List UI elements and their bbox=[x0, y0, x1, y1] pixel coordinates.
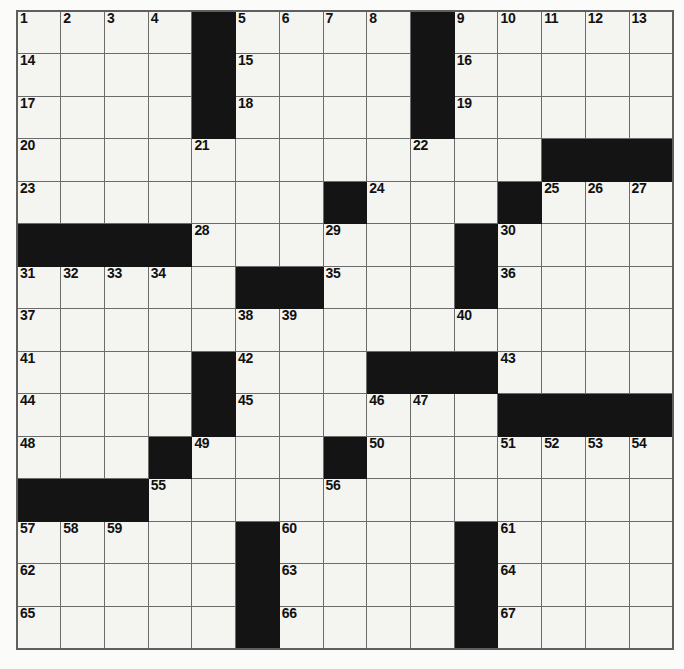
empty-cell[interactable] bbox=[585, 564, 629, 607]
empty-cell[interactable] bbox=[61, 351, 105, 394]
empty-cell[interactable] bbox=[542, 564, 586, 607]
numbered-cell[interactable]: 20 bbox=[17, 139, 61, 182]
numbered-cell[interactable]: 48 bbox=[17, 436, 61, 479]
numbered-cell[interactable]: 33 bbox=[104, 266, 148, 309]
numbered-cell[interactable]: 63 bbox=[279, 564, 323, 607]
empty-cell[interactable] bbox=[585, 224, 629, 267]
numbered-cell[interactable]: 61 bbox=[498, 521, 542, 564]
numbered-cell[interactable]: 30 bbox=[498, 224, 542, 267]
numbered-cell[interactable]: 50 bbox=[367, 436, 411, 479]
numbered-cell[interactable]: 19 bbox=[454, 96, 498, 139]
empty-cell[interactable] bbox=[367, 224, 411, 267]
empty-cell[interactable] bbox=[148, 181, 192, 224]
empty-cell[interactable] bbox=[236, 139, 280, 182]
numbered-cell[interactable]: 36 bbox=[498, 266, 542, 309]
empty-cell[interactable] bbox=[323, 309, 367, 352]
empty-cell[interactable] bbox=[542, 266, 586, 309]
numbered-cell[interactable]: 44 bbox=[17, 394, 61, 437]
empty-cell[interactable] bbox=[104, 309, 148, 352]
empty-cell[interactable] bbox=[629, 564, 673, 607]
numbered-cell[interactable]: 40 bbox=[454, 309, 498, 352]
empty-cell[interactable] bbox=[192, 266, 236, 309]
empty-cell[interactable] bbox=[454, 139, 498, 182]
empty-cell[interactable] bbox=[410, 181, 454, 224]
numbered-cell[interactable]: 4 bbox=[148, 11, 192, 54]
empty-cell[interactable] bbox=[498, 139, 542, 182]
empty-cell[interactable] bbox=[410, 564, 454, 607]
empty-cell[interactable] bbox=[542, 351, 586, 394]
empty-cell[interactable] bbox=[629, 606, 673, 649]
numbered-cell[interactable]: 18 bbox=[236, 96, 280, 139]
empty-cell[interactable] bbox=[585, 521, 629, 564]
empty-cell[interactable] bbox=[148, 521, 192, 564]
empty-cell[interactable] bbox=[192, 606, 236, 649]
empty-cell[interactable] bbox=[148, 309, 192, 352]
empty-cell[interactable] bbox=[454, 394, 498, 437]
empty-cell[interactable] bbox=[367, 309, 411, 352]
numbered-cell[interactable]: 52 bbox=[542, 436, 586, 479]
empty-cell[interactable] bbox=[542, 521, 586, 564]
numbered-cell[interactable]: 24 bbox=[367, 181, 411, 224]
numbered-cell[interactable]: 38 bbox=[236, 309, 280, 352]
numbered-cell[interactable]: 65 bbox=[17, 606, 61, 649]
numbered-cell[interactable]: 42 bbox=[236, 351, 280, 394]
empty-cell[interactable] bbox=[279, 181, 323, 224]
empty-cell[interactable] bbox=[279, 224, 323, 267]
empty-cell[interactable] bbox=[367, 54, 411, 97]
numbered-cell[interactable]: 57 bbox=[17, 521, 61, 564]
numbered-cell[interactable]: 7 bbox=[323, 11, 367, 54]
empty-cell[interactable] bbox=[542, 606, 586, 649]
empty-cell[interactable] bbox=[585, 606, 629, 649]
numbered-cell[interactable]: 5 bbox=[236, 11, 280, 54]
numbered-cell[interactable]: 16 bbox=[454, 54, 498, 97]
empty-cell[interactable] bbox=[585, 96, 629, 139]
numbered-cell[interactable]: 6 bbox=[279, 11, 323, 54]
empty-cell[interactable] bbox=[629, 479, 673, 522]
empty-cell[interactable] bbox=[323, 564, 367, 607]
empty-cell[interactable] bbox=[454, 436, 498, 479]
numbered-cell[interactable]: 56 bbox=[323, 479, 367, 522]
empty-cell[interactable] bbox=[542, 54, 586, 97]
empty-cell[interactable] bbox=[61, 139, 105, 182]
empty-cell[interactable] bbox=[629, 351, 673, 394]
empty-cell[interactable] bbox=[498, 96, 542, 139]
numbered-cell[interactable]: 43 bbox=[498, 351, 542, 394]
numbered-cell[interactable]: 17 bbox=[17, 96, 61, 139]
empty-cell[interactable] bbox=[279, 139, 323, 182]
empty-cell[interactable] bbox=[279, 54, 323, 97]
empty-cell[interactable] bbox=[367, 139, 411, 182]
empty-cell[interactable] bbox=[367, 479, 411, 522]
empty-cell[interactable] bbox=[629, 96, 673, 139]
empty-cell[interactable] bbox=[323, 521, 367, 564]
numbered-cell[interactable]: 46 bbox=[367, 394, 411, 437]
numbered-cell[interactable]: 31 bbox=[17, 266, 61, 309]
numbered-cell[interactable]: 59 bbox=[104, 521, 148, 564]
empty-cell[interactable] bbox=[104, 351, 148, 394]
empty-cell[interactable] bbox=[410, 606, 454, 649]
numbered-cell[interactable]: 37 bbox=[17, 309, 61, 352]
numbered-cell[interactable]: 66 bbox=[279, 606, 323, 649]
empty-cell[interactable] bbox=[61, 436, 105, 479]
empty-cell[interactable] bbox=[61, 181, 105, 224]
empty-cell[interactable] bbox=[410, 224, 454, 267]
empty-cell[interactable] bbox=[192, 564, 236, 607]
numbered-cell[interactable]: 64 bbox=[498, 564, 542, 607]
numbered-cell[interactable]: 13 bbox=[629, 11, 673, 54]
empty-cell[interactable] bbox=[104, 606, 148, 649]
empty-cell[interactable] bbox=[192, 181, 236, 224]
empty-cell[interactable] bbox=[498, 54, 542, 97]
empty-cell[interactable] bbox=[323, 394, 367, 437]
empty-cell[interactable] bbox=[323, 606, 367, 649]
numbered-cell[interactable]: 14 bbox=[17, 54, 61, 97]
empty-cell[interactable] bbox=[148, 96, 192, 139]
empty-cell[interactable] bbox=[148, 394, 192, 437]
empty-cell[interactable] bbox=[61, 309, 105, 352]
numbered-cell[interactable]: 67 bbox=[498, 606, 542, 649]
numbered-cell[interactable]: 2 bbox=[61, 11, 105, 54]
empty-cell[interactable] bbox=[104, 564, 148, 607]
empty-cell[interactable] bbox=[498, 479, 542, 522]
numbered-cell[interactable]: 27 bbox=[629, 181, 673, 224]
empty-cell[interactable] bbox=[148, 564, 192, 607]
empty-cell[interactable] bbox=[629, 521, 673, 564]
empty-cell[interactable] bbox=[104, 394, 148, 437]
